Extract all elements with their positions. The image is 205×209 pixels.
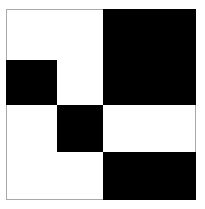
figure-title: Abstract black and white block pattern: [0, 0, 1, 1]
center-black-square: [57, 105, 103, 152]
figure-root: Abstract black and white block pattern: [0, 0, 205, 209]
upper-left-black-square: [6, 60, 57, 105]
bottom-right-black-block: [103, 152, 196, 200]
top-right-black-block: [103, 9, 196, 105]
